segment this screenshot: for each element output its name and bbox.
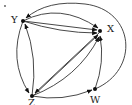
edge-y-to-z <box>17 21 29 93</box>
directed-graph-diagram: Y X Z W <box>0 0 132 105</box>
edge-z-to-y <box>25 24 34 96</box>
edge-z-to-x-straight <box>33 35 98 96</box>
node-x[interactable] <box>98 29 102 33</box>
label-w: W <box>90 94 101 105</box>
label-x: X <box>107 23 115 34</box>
node-labels: Y X Z W <box>10 14 115 105</box>
edges <box>17 3 126 98</box>
label-y: Y <box>10 14 18 25</box>
node-w[interactable] <box>93 87 97 91</box>
edge-y-to-x-straight <box>23 21 97 30</box>
edge-z-to-w <box>32 90 92 98</box>
label-z: Z <box>28 97 35 105</box>
node-y[interactable] <box>21 19 25 23</box>
edge-x-to-z <box>35 33 99 93</box>
edge-w-to-x <box>95 36 102 89</box>
edge-w-to-y-outer <box>26 3 126 89</box>
stray-dot <box>4 5 6 7</box>
